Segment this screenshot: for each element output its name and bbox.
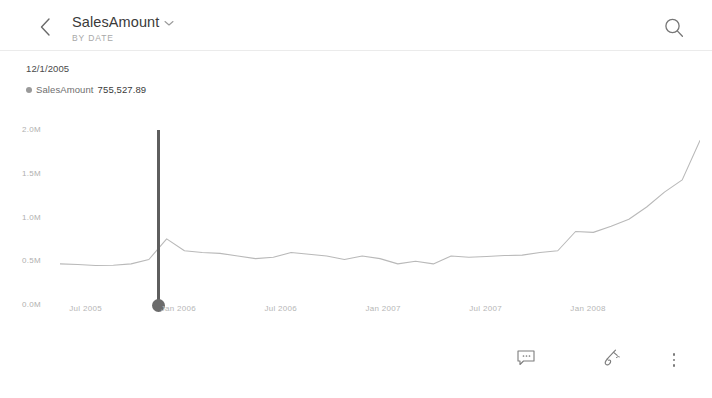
y-axis: 0.0M0.5M1.0M1.5M2.0M — [22, 118, 64, 303]
readout-value: 755,527.89 — [98, 84, 147, 95]
annotate-button[interactable] — [596, 346, 624, 374]
page-subtitle: BY DATE — [72, 33, 174, 44]
x-axis-tick-label: Jul 2005 — [69, 304, 102, 313]
header-title-block: SalesAmount BY DATE — [72, 13, 174, 44]
app-header: SalesAmount BY DATE — [0, 0, 712, 51]
bottom-toolbar — [0, 340, 712, 380]
readout-value-row: SalesAmount 755,527.89 — [26, 84, 146, 95]
x-axis-tick-label: Jan 2008 — [570, 304, 605, 313]
chart-readout: 12/1/2005 SalesAmount 755,527.89 — [26, 62, 146, 95]
plot-area[interactable] — [60, 130, 700, 305]
readout-date: 12/1/2005 — [26, 62, 146, 75]
x-axis-tick-label: Jul 2007 — [469, 304, 502, 313]
y-axis-tick-label: 1.5M — [22, 169, 64, 178]
series-line-salesamount — [60, 130, 700, 305]
y-axis-tick-label: 0.5M — [22, 256, 64, 265]
more-vertical-icon — [673, 353, 676, 367]
chevron-left-icon — [39, 17, 52, 37]
x-axis-tick-label: Jan 2007 — [366, 304, 401, 313]
search-icon — [662, 26, 686, 43]
search-button[interactable] — [662, 16, 686, 40]
annotate-pen-icon — [599, 347, 621, 373]
page-title: SalesAmount — [72, 14, 159, 31]
x-axis-tick-label: Jul 2006 — [264, 304, 297, 313]
chevron-down-icon[interactable] — [164, 13, 174, 31]
cursor-line — [157, 130, 160, 302]
comment-button[interactable] — [512, 346, 540, 374]
more-options-button[interactable] — [660, 346, 688, 374]
comment-bubble-icon — [516, 349, 536, 371]
readout-series-label: SalesAmount — [36, 84, 94, 95]
x-axis-tick-label: Jan 2006 — [161, 304, 196, 313]
back-button[interactable] — [34, 16, 56, 38]
legend-marker-icon — [26, 87, 32, 93]
title-dropdown[interactable]: SalesAmount — [72, 13, 174, 31]
line-chart[interactable]: 0.0M0.5M1.0M1.5M2.0M Jul 2005Jan 2006Jul… — [0, 118, 712, 328]
x-axis: Jul 2005Jan 2006Jul 2006Jan 2007Jul 2007… — [0, 304, 712, 320]
y-axis-tick-label: 1.0M — [22, 213, 64, 222]
y-axis-tick-label: 2.0M — [22, 125, 64, 134]
